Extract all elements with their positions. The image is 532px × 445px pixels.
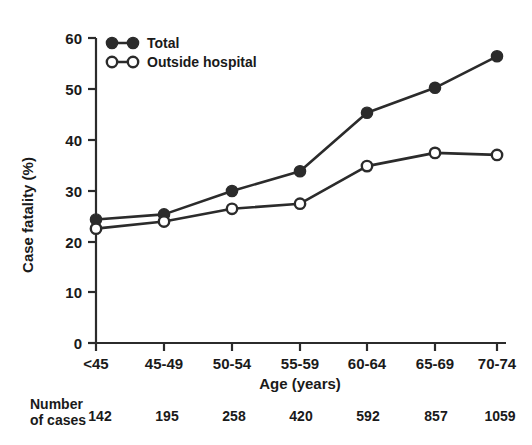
number-of-cases-value-3: 420 (289, 408, 313, 424)
x-axis-tick-labels: <45 45-49 50-54 55-59 60-64 65-69 70-74 (83, 355, 517, 372)
y-tick-label-60: 60 (65, 30, 82, 47)
data-point-marker (492, 150, 502, 160)
number-of-cases-row: Number of cases 142 195 258 420 592 857 … (30, 396, 516, 428)
number-of-cases-value-5: 857 (424, 408, 448, 424)
data-point-marker (362, 161, 372, 171)
x-tick-label-1: 45-49 (145, 355, 183, 372)
series-line-outside-hospital (96, 153, 497, 229)
y-axis-tick-labels: 60 50 40 30 20 10 0 (65, 30, 82, 352)
case-fatality-chart-figure: 60 50 40 30 20 10 0 Case fatality (%) <4… (0, 0, 532, 445)
data-point-marker (491, 51, 502, 62)
data-point-marker (294, 166, 305, 177)
legend-marker-filled-circle-icon (106, 37, 117, 48)
number-of-cases-value-1: 195 (155, 408, 179, 424)
number-of-cases-value-0: 142 (88, 408, 112, 424)
x-tick-label-3: 55-59 (281, 355, 319, 372)
y-tick-label-0: 0 (74, 335, 82, 352)
x-tick-label-5: 65-69 (416, 355, 454, 372)
series-outside-hospital (91, 148, 502, 234)
number-of-cases-value-6: 1059 (484, 408, 515, 424)
data-point-marker (430, 148, 440, 158)
number-of-cases-label-line2: of cases (30, 412, 86, 428)
data-point-marker (295, 199, 305, 209)
x-axis-title: Age (years) (259, 375, 341, 392)
legend-marker-open-circle-icon-2 (128, 57, 138, 67)
number-of-cases-label-line1: Number (30, 396, 83, 412)
y-tick-label-20: 20 (65, 234, 82, 251)
legend-label-outside-hospital: Outside hospital (147, 54, 257, 70)
x-tick-label-4: 60-64 (348, 355, 387, 372)
series-line-total (96, 56, 497, 219)
series-layer (90, 51, 502, 234)
x-axis-ticks (96, 343, 497, 351)
data-point-marker (227, 204, 237, 214)
chart-canvas: 60 50 40 30 20 10 0 Case fatality (%) <4… (0, 0, 532, 445)
x-tick-label-2: 50-54 (213, 355, 252, 372)
y-axis-title: Case fatality (%) (19, 157, 36, 273)
data-point-marker (361, 107, 372, 118)
number-of-cases-value-4: 592 (356, 408, 380, 424)
legend-marker-filled-circle-icon-2 (127, 37, 138, 48)
y-axis-ticks (88, 38, 96, 343)
legend-marker-open-circle-icon (107, 57, 117, 67)
y-tick-label-50: 50 (65, 81, 82, 98)
legend-entry-outside-hospital: Outside hospital (107, 54, 257, 70)
legend-entry-total: Total (106, 35, 179, 51)
chart-legend: Total Outside hospital (106, 35, 256, 70)
data-point-marker (91, 223, 101, 233)
legend-label-total: Total (147, 35, 179, 51)
data-point-marker (159, 216, 169, 226)
y-tick-label-10: 10 (65, 284, 82, 301)
y-tick-label-40: 40 (65, 132, 82, 149)
data-point-marker (429, 82, 440, 93)
x-tick-label-6: 70-74 (478, 355, 517, 372)
data-point-marker (226, 185, 237, 196)
number-of-cases-value-2: 258 (222, 408, 246, 424)
y-tick-label-30: 30 (65, 183, 82, 200)
x-tick-label-0: <45 (83, 355, 108, 372)
